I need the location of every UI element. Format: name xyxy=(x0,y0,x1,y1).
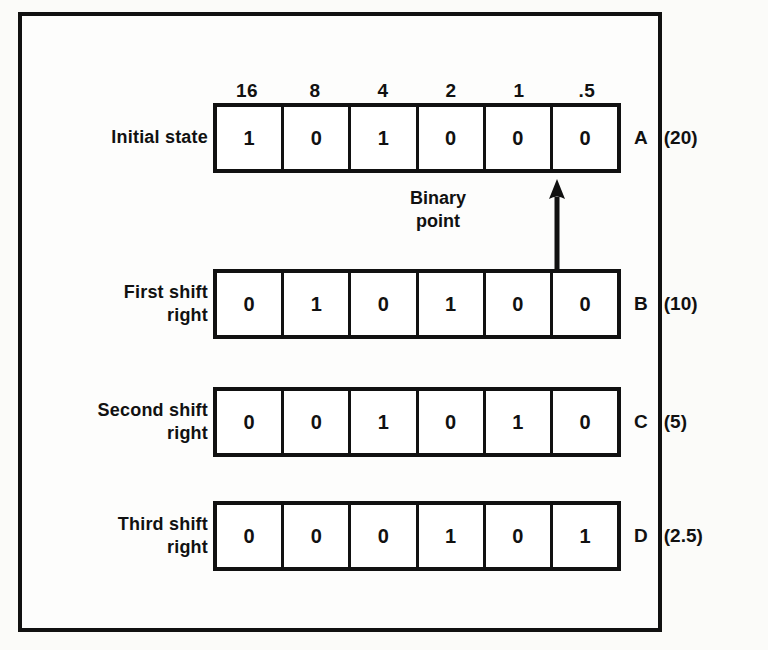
binary-point-label: Binary point xyxy=(372,187,504,234)
up-arrow-icon xyxy=(546,179,568,277)
bit-cell: 1 xyxy=(351,107,418,169)
bit-cell: 1 xyxy=(553,505,617,567)
figure-border: 16 8 4 2 1 .5 Initial state 1 0 1 0 0 0 … xyxy=(18,12,662,632)
bit-weight-label: .5 xyxy=(553,78,621,104)
showthrough-line xyxy=(680,60,768,77)
register-letter-a: A xyxy=(634,127,648,148)
bit-cell: 0 xyxy=(217,391,284,453)
bit-cell: 1 xyxy=(419,505,486,567)
row-label-d: Third shift right xyxy=(118,513,208,559)
bit-cell: 0 xyxy=(284,505,351,567)
row-label-c: Second shift right xyxy=(98,399,208,445)
bit-cell: 1 xyxy=(284,273,351,335)
bit-weight-header-row: 16 8 4 2 1 .5 xyxy=(213,78,621,104)
register-tag-b: B(10) xyxy=(634,293,698,315)
bit-weight-label: 4 xyxy=(349,78,417,104)
bit-cell: 0 xyxy=(217,273,284,335)
register-tag-d: D(2.5) xyxy=(634,525,703,547)
bit-cell: 0 xyxy=(553,391,617,453)
register-decimal-a: (20) xyxy=(664,127,698,148)
bit-weight-label: 16 xyxy=(213,78,281,104)
bit-cell: 0 xyxy=(419,391,486,453)
register-row-d: Third shift right 0 0 0 1 0 1 D(2.5) xyxy=(22,501,666,571)
bit-cell: 0 xyxy=(419,107,486,169)
register-cells-a: 1 0 1 0 0 0 xyxy=(213,103,621,173)
bit-cell: 0 xyxy=(486,107,553,169)
register-row-c: Second shift right 0 0 1 0 1 0 C(5) xyxy=(22,387,666,457)
bit-cell: 0 xyxy=(351,273,418,335)
register-letter-b: B xyxy=(634,293,648,314)
bit-cell: 0 xyxy=(553,107,617,169)
bit-cell: 0 xyxy=(486,505,553,567)
bit-cell: 0 xyxy=(553,273,617,335)
bit-cell: 1 xyxy=(419,273,486,335)
bit-cell: 1 xyxy=(217,107,284,169)
register-cells-c: 0 0 1 0 1 0 xyxy=(213,387,621,457)
register-decimal-d: (2.5) xyxy=(664,525,703,546)
bit-cell: 0 xyxy=(284,107,351,169)
register-letter-d: D xyxy=(634,525,648,546)
register-tag-a: A(20) xyxy=(634,127,698,149)
bit-cell: 1 xyxy=(351,391,418,453)
bit-weight-label: 2 xyxy=(417,78,485,104)
bit-cell: 0 xyxy=(351,505,418,567)
bit-cell: 1 xyxy=(486,391,553,453)
register-row-b: First shift right 0 1 0 1 0 0 B(10) xyxy=(22,269,666,339)
bit-cell: 0 xyxy=(217,505,284,567)
row-label-a: Initial state xyxy=(111,126,208,149)
scanned-page: 16 8 4 2 1 .5 Initial state 1 0 1 0 0 0 … xyxy=(0,0,768,650)
bit-weight-label: 8 xyxy=(281,78,349,104)
row-label-b: First shift right xyxy=(124,281,208,327)
register-letter-c: C xyxy=(634,411,648,432)
bit-cell: 0 xyxy=(486,273,553,335)
register-cells-d: 0 0 0 1 0 1 xyxy=(213,501,621,571)
register-cells-b: 0 1 0 1 0 0 xyxy=(213,269,621,339)
register-row-a: Initial state 1 0 1 0 0 0 A(20) xyxy=(22,103,666,173)
binary-point-annotation: Binary point xyxy=(22,173,666,273)
register-decimal-c: (5) xyxy=(664,411,687,432)
bit-cell: 0 xyxy=(284,391,351,453)
bit-weight-label: 1 xyxy=(485,78,553,104)
register-decimal-b: (10) xyxy=(664,293,698,314)
register-tag-c: C(5) xyxy=(634,411,687,433)
